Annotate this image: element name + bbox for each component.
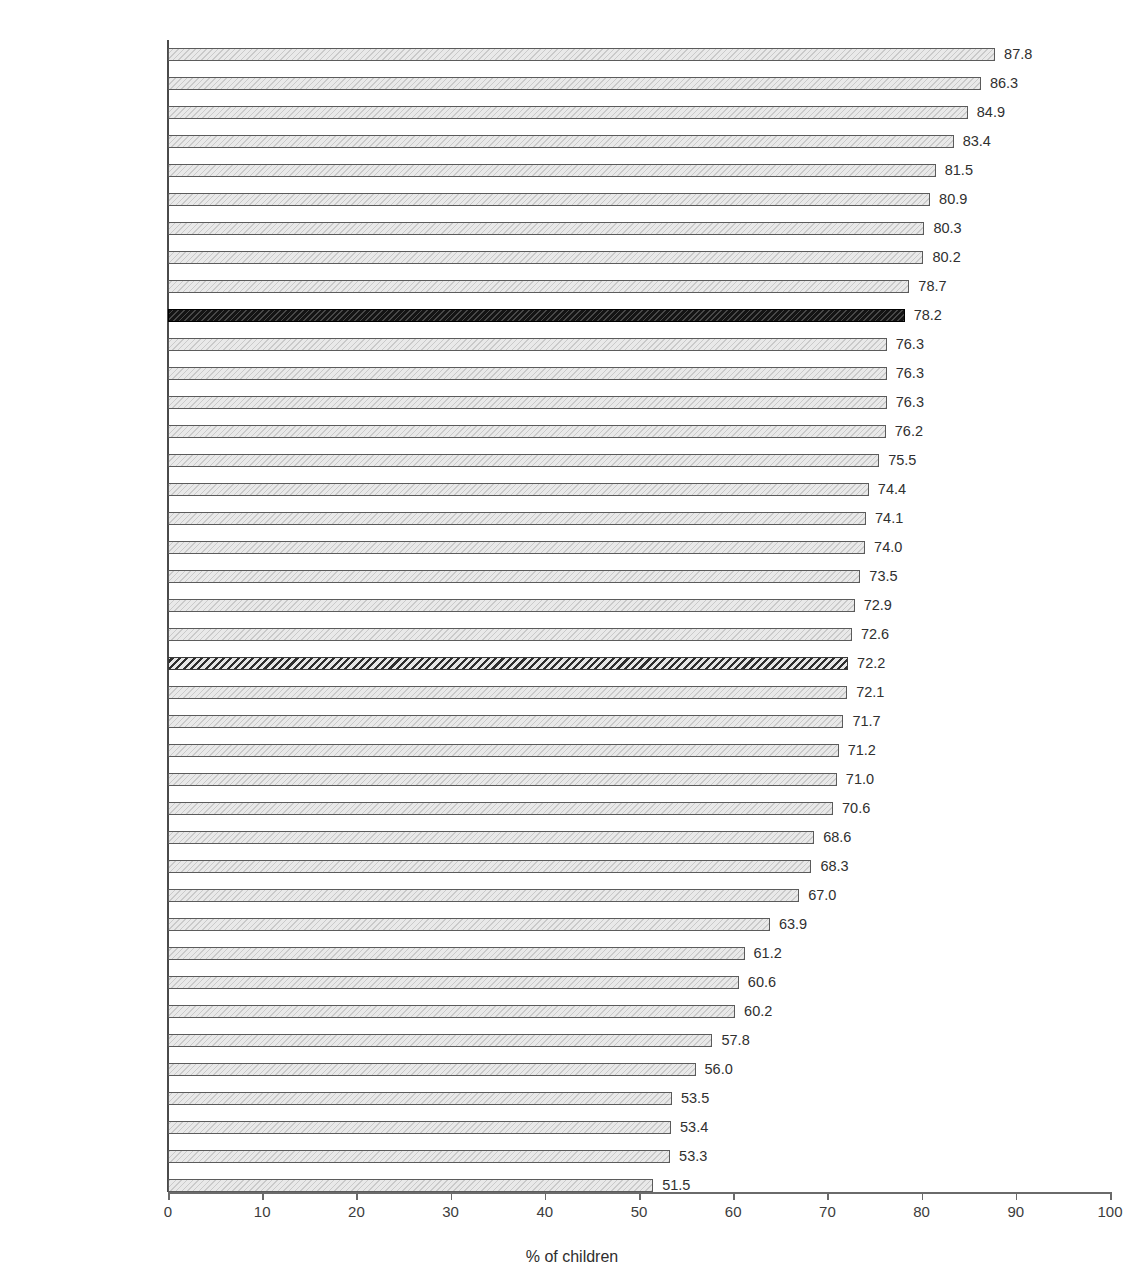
chart-bar[interactable] [168, 860, 811, 873]
chart-bar[interactable] [168, 1092, 672, 1105]
chart-bar[interactable] [168, 599, 855, 612]
chart-bar[interactable] [168, 773, 837, 786]
value-label: 80.2 [932, 243, 960, 272]
value-label: 80.9 [939, 185, 967, 214]
value-label: 68.6 [823, 823, 851, 852]
chart-bar[interactable] [168, 1005, 735, 1018]
chart-bar[interactable] [168, 1034, 712, 1047]
value-label: 70.6 [842, 794, 870, 823]
chart-row: USA60.6 [168, 968, 1110, 997]
chart-bar[interactable] [168, 367, 887, 380]
x-axis-tick-label: 0 [164, 1203, 172, 1220]
chart-bar[interactable] [168, 280, 909, 293]
value-label: 76.3 [896, 330, 924, 359]
value-label: 80.3 [933, 214, 961, 243]
value-label: 72.9 [864, 591, 892, 620]
chart-row: Switzerland63.9 [168, 910, 1110, 939]
chart-bar[interactable] [168, 628, 852, 641]
chart-bar[interactable] [168, 1150, 670, 1163]
chart-bar[interactable] [168, 106, 968, 119]
chart-row: Croatia72.1 [168, 678, 1110, 707]
chart-row: Belgium (Flemish)81.5 [168, 156, 1110, 185]
value-label: 78.7 [918, 272, 946, 301]
x-axis-tick [168, 1192, 170, 1200]
value-label: 53.4 [680, 1113, 708, 1142]
chart-bar[interactable] [168, 802, 833, 815]
chart-bar[interactable] [168, 512, 866, 525]
x-axis-tick [356, 1192, 358, 1200]
chart-row: France76.3 [168, 359, 1110, 388]
value-label: 76.2 [895, 417, 923, 446]
x-axis-tick [262, 1192, 264, 1200]
x-axis-tick-label: 40 [536, 1203, 553, 1220]
value-label: 72.1 [856, 678, 884, 707]
chart-row: Lithuania72.6 [168, 620, 1110, 649]
chart-row: Denmark83.4 [168, 127, 1110, 156]
chart-bar[interactable] [168, 164, 936, 177]
chart-bar[interactable] [168, 77, 981, 90]
x-axis-tick-label: 20 [348, 1203, 365, 1220]
chart-bar[interactable] [168, 48, 995, 61]
chart-bar[interactable] [168, 541, 865, 554]
chart-bar[interactable] [168, 251, 923, 264]
value-label: 74.0 [874, 533, 902, 562]
chart-bar[interactable] [168, 338, 887, 351]
value-label: 75.5 [888, 446, 916, 475]
chart-bar[interactable] [168, 425, 886, 438]
value-label: 87.8 [1004, 40, 1032, 69]
chart-bar[interactable] [168, 135, 954, 148]
chart-bar[interactable] [168, 918, 770, 931]
plot-area: Portugal87.8Netherlands86.3Sweden84.9Den… [168, 40, 1110, 1192]
chart-bar[interactable] [168, 889, 799, 902]
x-axis-tick [1110, 1192, 1112, 1200]
chart-bar[interactable] [168, 193, 930, 206]
chart-row: England74.0 [168, 533, 1110, 562]
chart-row: Wales68.6 [168, 823, 1110, 852]
chart-bar[interactable] [168, 396, 887, 409]
chart-row: Sweden84.9 [168, 98, 1110, 127]
value-label: 53.5 [681, 1084, 709, 1113]
chart-bar[interactable] [168, 715, 843, 728]
x-axis-tick-label: 70 [819, 1203, 836, 1220]
value-label: 71.0 [846, 765, 874, 794]
x-axis-tick [733, 1192, 735, 1200]
chart-row: Luxembourg68.3 [168, 852, 1110, 881]
x-axis-tick [1016, 1192, 1018, 1200]
chart-bar[interactable] [168, 1063, 696, 1076]
value-label: 73.5 [869, 562, 897, 591]
x-axis-tick-label: 60 [725, 1203, 742, 1220]
x-axis-tick [922, 1192, 924, 1200]
x-axis-tick [639, 1192, 641, 1200]
chart-bar[interactable] [168, 454, 879, 467]
chart-bar[interactable] [168, 976, 739, 989]
chart-row: Scotland71.0 [168, 765, 1110, 794]
value-label: 67.0 [808, 881, 836, 910]
chart-bar[interactable] [168, 686, 847, 699]
chart-row: Greenland67.0 [168, 881, 1110, 910]
value-label: 51.5 [662, 1171, 690, 1200]
chart-bar[interactable] [168, 309, 905, 322]
chart-row: Netherlands86.3 [168, 69, 1110, 98]
chart-row: Poland74.1 [168, 504, 1110, 533]
x-axis-tick-label: 50 [631, 1203, 648, 1220]
chart-bar[interactable] [168, 831, 814, 844]
chart-row: Bulgaria75.5 [168, 446, 1110, 475]
chart-bar[interactable] [168, 483, 869, 496]
x-axis-tick-label: 30 [442, 1203, 459, 1220]
chart-row: Ukraine76.3 [168, 330, 1110, 359]
chart-row: Hungary60.2 [168, 997, 1110, 1026]
chart-bar[interactable] [168, 222, 924, 235]
x-axis-tick-label: 80 [913, 1203, 930, 1220]
chart-bar[interactable] [168, 1179, 653, 1192]
chart-row: Turkey71.7 [168, 707, 1110, 736]
chart-row: Finland78.7 [168, 272, 1110, 301]
chart-row: Norway80.9 [168, 185, 1110, 214]
chart-bar[interactable] [168, 1121, 671, 1134]
chart-bar[interactable] [168, 744, 839, 757]
chart-bar[interactable] [168, 657, 848, 670]
value-label: 78.2 [914, 301, 942, 330]
value-label: 84.9 [977, 98, 1005, 127]
chart-bar[interactable] [168, 570, 860, 583]
chart-bar[interactable] [168, 947, 745, 960]
chart-row: Macedonia74.4 [168, 475, 1110, 504]
